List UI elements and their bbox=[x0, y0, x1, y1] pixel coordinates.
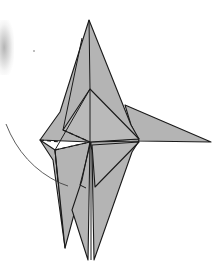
paper-model bbox=[40, 20, 211, 260]
origami-diagram bbox=[0, 0, 217, 263]
